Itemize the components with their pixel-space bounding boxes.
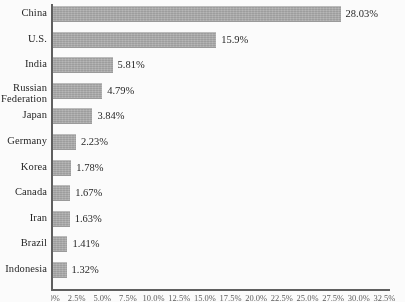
bar-row: Korea1.78% [0, 159, 405, 182]
bar-row: India5.81% [0, 56, 405, 79]
bar [53, 185, 70, 201]
x-tick-label: 2.5% [68, 294, 86, 302]
bar-value-label: 1.63% [75, 211, 102, 227]
category-label: India [0, 58, 47, 69]
x-axis-tick-labels: 0.0%2.5%5.0%7.5%10.0%12.5%15.0%17.5%20.0… [51, 294, 405, 302]
category-label: Brazil [0, 237, 47, 248]
bar-row: Brazil1.41% [0, 235, 405, 258]
category-label: Canada [0, 186, 47, 197]
bar-row: U.S.15.9% [0, 31, 405, 54]
x-tick-label: 15.0% [194, 294, 216, 302]
bar-row: Russian Federation4.79% [0, 82, 405, 105]
bar-value-label: 4.79% [107, 83, 134, 99]
bar [53, 108, 92, 124]
bar-value-label: 1.67% [75, 185, 102, 201]
bar-value-label: 3.84% [97, 108, 124, 124]
bar [53, 83, 102, 99]
bar-value-label: 28.03% [346, 6, 378, 22]
category-label: Russian Federation [0, 82, 47, 104]
bar [53, 6, 341, 22]
category-label: Japan [0, 109, 47, 120]
plot-area: China28.03%U.S.15.9%India5.81%Russian Fe… [0, 0, 405, 302]
category-label: China [0, 7, 47, 18]
x-tick-label: 30.0% [348, 294, 370, 302]
category-label: U.S. [0, 33, 47, 44]
bar [53, 57, 113, 73]
category-label: Korea [0, 161, 47, 172]
category-label: Iran [0, 212, 47, 223]
bar-row: Indonesia1.32% [0, 261, 405, 284]
x-axis-line [51, 289, 390, 291]
x-tick-label: 32.5% [373, 294, 395, 302]
bar-row: Japan3.84% [0, 107, 405, 130]
x-tick-label: 0.0% [51, 294, 60, 302]
x-tick-label: 5.0% [93, 294, 111, 302]
bar-row: China28.03% [0, 5, 405, 28]
bar-chart: China28.03%U.S.15.9%India5.81%Russian Fe… [0, 0, 405, 302]
bar-value-label: 5.81% [118, 57, 145, 73]
bar-value-label: 2.23% [81, 134, 108, 150]
bar-row: Iran1.63% [0, 210, 405, 233]
bar [53, 160, 71, 176]
bar-value-label: 1.78% [76, 160, 103, 176]
bar-value-label: 1.41% [72, 236, 99, 252]
bar [53, 32, 216, 48]
bar [53, 262, 67, 278]
x-tick-label: 20.0% [245, 294, 267, 302]
x-tick-label: 12.5% [168, 294, 190, 302]
x-tick-label: 22.5% [271, 294, 293, 302]
bar-row: Canada1.67% [0, 184, 405, 207]
bar-value-label: 1.32% [72, 262, 99, 278]
bar [53, 134, 76, 150]
category-label: Indonesia [0, 263, 47, 274]
x-tick-label: 17.5% [220, 294, 242, 302]
bar-value-label: 15.9% [221, 32, 248, 48]
bar [53, 211, 70, 227]
x-tick-label: 27.5% [322, 294, 344, 302]
x-tick-label: 25.0% [297, 294, 319, 302]
bar-row: Germany2.23% [0, 133, 405, 156]
category-label: Germany [0, 135, 47, 146]
bar [53, 236, 67, 252]
x-tick-label: 7.5% [119, 294, 137, 302]
x-tick-label: 10.0% [143, 294, 165, 302]
